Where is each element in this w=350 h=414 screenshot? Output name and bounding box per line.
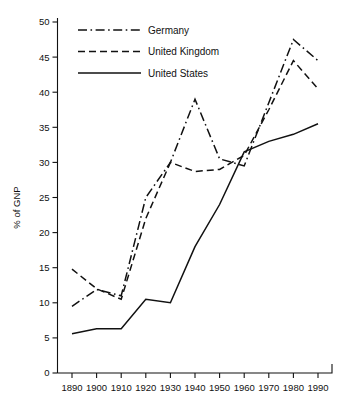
- y-tick-label: 10: [39, 297, 50, 308]
- y-tick-label: 40: [39, 87, 50, 98]
- x-tick-label: 1930: [160, 382, 181, 393]
- x-tick-label: 1990: [307, 382, 328, 393]
- y-tick-label: 45: [39, 52, 50, 63]
- legend-label-germany: Germany: [148, 25, 189, 36]
- x-axis-tick-labels: 1890190019101920193019401950196019701980…: [61, 382, 328, 393]
- series-line-germany: [72, 40, 318, 307]
- series-line-united-states: [72, 124, 318, 334]
- x-tick-label: 1950: [209, 382, 230, 393]
- x-tick-label: 1900: [86, 382, 107, 393]
- data-series-group: [72, 40, 318, 334]
- y-tick-label: 30: [39, 157, 50, 168]
- y-tick-label: 15: [39, 262, 50, 273]
- x-tick-label: 1940: [184, 382, 205, 393]
- x-tick-label: 1960: [234, 382, 255, 393]
- x-axis-line: [58, 364, 333, 373]
- chart-canvas: 05101520253035404550 1890190019101920193…: [0, 0, 350, 414]
- x-tick-label: 1970: [258, 382, 279, 393]
- y-axis-tick-labels: 05101520253035404550: [39, 16, 50, 378]
- series-line-united-kingdom: [72, 61, 318, 300]
- x-tick-label: 1920: [135, 382, 156, 393]
- x-axis-tick-marks: [72, 373, 318, 378]
- y-axis-tick-marks: [53, 22, 58, 373]
- legend-label-united-states: United States: [148, 68, 208, 79]
- y-tick-label: 20: [39, 227, 50, 238]
- chart-legend: GermanyUnited KingdomUnited States: [78, 25, 219, 79]
- y-axis-title: % of GNP: [11, 186, 22, 228]
- x-tick-label: 1910: [111, 382, 132, 393]
- y-tick-label: 0: [44, 367, 49, 378]
- x-tick-label: 1980: [283, 382, 304, 393]
- line-chart: 05101520253035404550 1890190019101920193…: [0, 0, 350, 414]
- y-tick-label: 35: [39, 122, 50, 133]
- y-tick-label: 5: [44, 332, 49, 343]
- y-tick-label: 25: [39, 192, 50, 203]
- y-tick-label: 50: [39, 16, 50, 27]
- legend-label-united-kingdom: United Kingdom: [148, 46, 219, 57]
- x-tick-label: 1890: [61, 382, 82, 393]
